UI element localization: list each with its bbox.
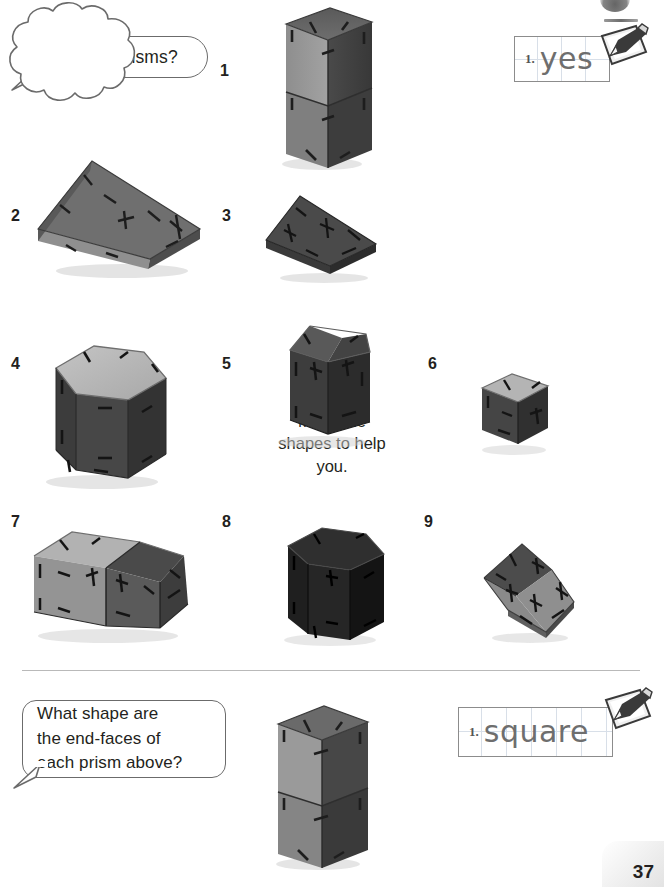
- shape-sloped-end-prism: [16, 524, 196, 646]
- answer-number-bottom: 1.: [469, 724, 479, 740]
- answer-value-bottom[interactable]: square: [484, 714, 589, 749]
- section-divider: [22, 670, 640, 671]
- answer-box-bottom[interactable]: 1. square: [458, 707, 613, 757]
- page-number-tab: 37: [602, 841, 664, 887]
- shape-small-cube: [468, 368, 560, 456]
- page-number: 37: [633, 861, 654, 883]
- shape-number-7: 7: [11, 513, 20, 531]
- pencil-notepad-icon[interactable]: [596, 22, 652, 76]
- shape-number-8: 8: [222, 513, 231, 531]
- answer-number-top: 1.: [525, 51, 535, 67]
- shape-number-4: 4: [11, 355, 20, 373]
- shape-bottom-tall-cuboid-prism: [262, 700, 376, 872]
- speech-bubble-text: What shape are the end-faces of each pri…: [23, 702, 196, 776]
- shape-number-9: 9: [424, 513, 433, 531]
- shape-dark-hexagonal-prism: [272, 522, 392, 648]
- shape-thin-square-plate: [474, 540, 584, 646]
- speech-bubble-tail-icon: [8, 764, 48, 790]
- shape-number-5: 5: [222, 355, 231, 373]
- shape-hexagonal-prism: [32, 338, 176, 490]
- worksheet-page: Are these prisms?: [0, 0, 664, 887]
- cloud-bubble-make-the-shapes: Make the shapes to help you.: [0, 0, 140, 108]
- speech-bubble-end-faces-question: What shape are the end-faces of each pri…: [22, 700, 226, 778]
- shape-number-6: 6: [428, 355, 437, 373]
- shape-pentagonal-prism: [266, 322, 378, 450]
- pencil-notepad-icon[interactable]: [600, 686, 656, 740]
- answer-value-top[interactable]: yes: [540, 41, 593, 76]
